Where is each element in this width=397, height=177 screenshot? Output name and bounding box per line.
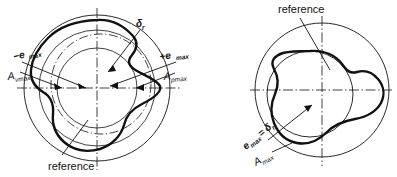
left-reference-label: reference [48, 160, 94, 172]
right-reference-label: reference [278, 3, 324, 15]
roundness-charts-figure: −e max A vmax +e max A pmax δ r referenc… [0, 0, 397, 177]
diagram-canvas: −e max A vmax +e max A pmax δ r referenc… [0, 0, 397, 177]
label-plus-e-max-symbol: +e [159, 49, 172, 62]
